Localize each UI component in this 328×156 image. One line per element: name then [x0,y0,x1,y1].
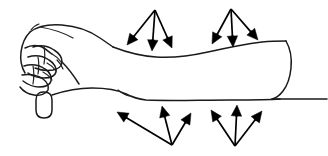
hand-tendon-line [40,27,73,38]
arrow-shaft [217,119,235,146]
arrow-shaft [231,9,251,32]
arrow-head [231,105,241,117]
upper-right-force-group [212,9,258,47]
hand-upper-edge [30,25,113,47]
arrow-shaft [134,10,155,37]
forearm-force-diagram [0,0,328,156]
arrow-head [148,39,158,51]
arrow-shaft [231,9,232,37]
arrow-shaft [235,115,236,146]
forearm-cut-end [272,41,291,99]
force-arrow [172,113,191,145]
wrist-fold-line [118,90,129,96]
lower-left-force-group [117,106,191,145]
arrow-shaft [217,9,231,35]
arrow-head [212,32,222,44]
force-arrow [231,9,258,40]
arrow-shaft [126,117,172,145]
arrow-head [211,110,221,122]
arrow-head [127,33,138,45]
force-arrow [212,9,231,44]
arrow-head [181,113,191,125]
back-of-hand-contour [21,32,30,73]
arrow-shaft [153,10,155,41]
arrow-shaft [172,122,186,145]
arrow-head [160,106,170,118]
figure-container: Forearm with compressive force arrows Li… [0,0,328,156]
arrow-head [117,112,129,122]
index-finger-crease [44,47,45,64]
forearm-dorsal-contour [113,41,286,57]
arrow-head [227,35,237,47]
force-arrow [155,10,172,48]
hand-wrist-junction [62,62,79,84]
forearm-group [113,41,327,100]
upper-left-force-group [127,10,172,51]
forearm-ventral-contour [126,94,280,100]
arrow-head [251,111,262,123]
arrow-shaft [235,119,256,146]
arrow-shaft [155,10,168,38]
lower-right-force-group [211,105,262,146]
hand-group [20,24,126,118]
thumb-web-contour [52,88,126,95]
arrow-head [163,36,172,48]
